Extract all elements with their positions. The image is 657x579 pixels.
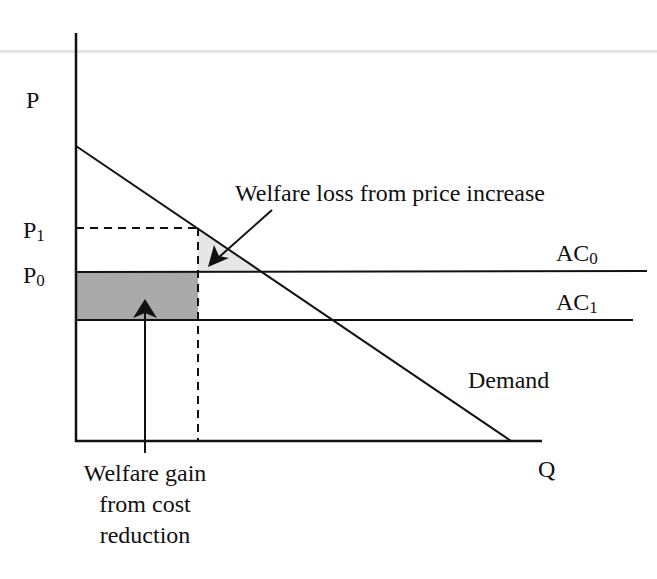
gain-line-1: Welfare gain [50, 458, 240, 489]
ac0-line [76, 271, 647, 272]
p-axis-label: P [26, 88, 39, 112]
ac0-label: AC0 [556, 241, 598, 267]
p0-label: P0 [23, 263, 45, 289]
welfare-loss-label: Welfare loss from price increase [235, 181, 545, 205]
ac1-label: AC1 [556, 290, 598, 316]
welfare-gain-label: Welfare gain from cost reduction [50, 458, 240, 551]
loss-arrow-shaft [218, 210, 272, 258]
gain-line-2: from cost [50, 489, 240, 520]
q-axis-label: Q [538, 457, 555, 481]
p1-label: P1 [23, 218, 45, 244]
gain-line-3: reduction [50, 520, 240, 551]
demand-label: Demand [468, 368, 549, 392]
